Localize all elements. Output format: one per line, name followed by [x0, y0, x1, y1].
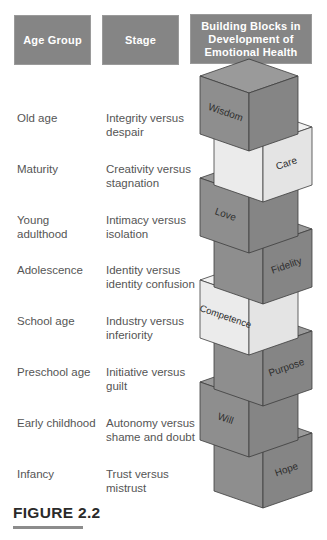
building-block-wisdom: Wisdom — [200, 59, 298, 151]
figure-underline — [13, 526, 83, 529]
figure-label: FIGURE 2.2 — [13, 504, 100, 522]
building-blocks-stack: HopeWillPurposeCompetenceFidelityLoveCar… — [0, 0, 327, 540]
